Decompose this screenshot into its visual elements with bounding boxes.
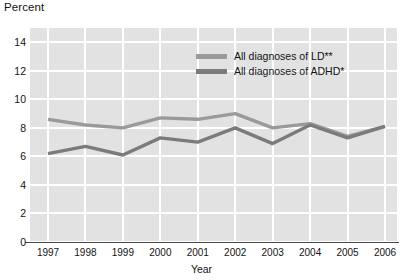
y-tick-label: 6	[2, 151, 26, 162]
x-tick-label: 2004	[290, 247, 330, 258]
y-tick-label: 10	[2, 94, 26, 105]
x-tick-label: 2006	[365, 247, 403, 258]
legend-label: All diagnoses of ADHD*	[234, 65, 344, 77]
x-axis-line	[25, 242, 399, 243]
chart-figure: Percent 02468101214 19971998199920002001…	[0, 0, 403, 280]
y-tick-label: 8	[2, 123, 26, 134]
y-tick-label: 4	[2, 180, 26, 191]
legend-item: All diagnoses of ADHD*	[196, 65, 344, 77]
y-tick-label: 14	[2, 37, 26, 48]
x-tick-label: 2003	[253, 247, 293, 258]
legend-swatch	[196, 69, 227, 74]
y-axis-title: Percent	[4, 1, 44, 14]
x-tick-label: 2002	[215, 247, 255, 258]
y-tick-label: 0	[2, 237, 26, 248]
legend-label: All diagnoses of LD**	[234, 50, 333, 62]
x-tick-label: 1999	[103, 247, 143, 258]
y-tick-label: 2	[2, 208, 26, 219]
x-tick-label: 1998	[65, 247, 105, 258]
legend-item: All diagnoses of LD**	[196, 50, 344, 62]
legend-swatch	[196, 54, 227, 59]
x-tick-label: 2001	[178, 247, 218, 258]
line-series-adhd	[48, 125, 385, 155]
y-tick-label: 12	[2, 66, 26, 77]
chart-legend: All diagnoses of LD**All diagnoses of AD…	[196, 50, 344, 77]
x-tick-label: 2005	[328, 247, 368, 258]
x-axis-title: Year	[0, 263, 403, 275]
x-tick-label: 2000	[140, 247, 180, 258]
x-tick-label: 1997	[28, 247, 68, 258]
